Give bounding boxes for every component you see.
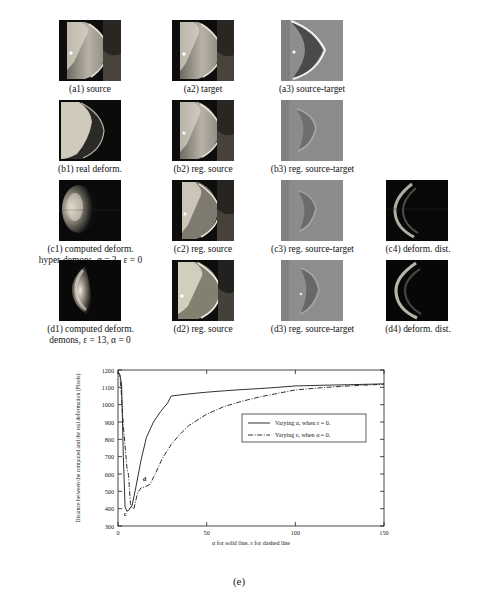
- y-tick-label: 700: [105, 453, 114, 460]
- thumbnail-b3: [281, 100, 343, 161]
- caption-a3: (a3) source-target: [261, 84, 363, 95]
- y-tick-label: 300: [105, 523, 114, 530]
- caption-d4: (d4) deform. dist.: [370, 324, 466, 335]
- thumbnail-d4: [386, 260, 448, 321]
- thumbnail-c4: [386, 180, 448, 241]
- thumbnail-a3: [281, 20, 343, 81]
- y-tick-label: 500: [105, 488, 114, 495]
- thumbnail-b1: [59, 100, 121, 161]
- caption-c1: (c1) computed deform.: [27, 244, 154, 255]
- figure-registration-results: (a1) source (a2) target (a3) source-targ…: [0, 0, 478, 608]
- caption-d1: (d1) computed deform.: [27, 324, 154, 335]
- y-tick-label: 1000: [102, 401, 114, 408]
- caption-a1: (a1) source: [39, 84, 141, 95]
- y-tick-label: 1100: [102, 384, 114, 391]
- caption-b1: (b1) real deform.: [39, 164, 141, 175]
- caption-b3: (b3) reg. source-target: [255, 164, 370, 175]
- y-tick-label: 600: [105, 471, 114, 478]
- caption-d2: (d2) reg. source: [155, 324, 251, 335]
- caption-b2: (b2) reg. source: [152, 164, 254, 175]
- x-tick-label: 150: [379, 529, 388, 536]
- thumbnail-d1: [59, 260, 121, 321]
- x-tick-label: 50: [204, 529, 210, 536]
- legend-label-1: Varying α, when ε = 0.: [275, 420, 331, 426]
- caption-c4: (c4) deform. dist.: [370, 244, 466, 255]
- thumbnail-c3: [281, 180, 343, 241]
- thumbnail-c2: [172, 180, 234, 241]
- thumbnail-a1: [59, 20, 121, 81]
- subfigure-label-e: (e): [0, 575, 478, 587]
- caption-a2: (a2) target: [152, 84, 254, 95]
- caption-d3: (d3) reg. source-target: [255, 324, 370, 335]
- caption-c2: (c2) reg. source: [155, 244, 251, 255]
- caption-c3: (c3) reg. source-target: [255, 244, 370, 255]
- y-tick-label: 400: [105, 505, 114, 512]
- x-tick-label: 100: [291, 529, 300, 536]
- thumbnail-d2: [172, 260, 234, 321]
- caption-d1-line2: demons, ε = 13, α = 0: [25, 335, 155, 346]
- line-chart-deformation-distance: 3004005006007008009001000110012000501001…: [66, 358, 396, 568]
- annotation-c: c: [124, 510, 127, 517]
- legend-label-2: Varying ε, when α = 0.: [275, 432, 331, 438]
- annotation-d: d: [143, 475, 147, 482]
- y-tick-label: 900: [105, 419, 114, 426]
- y-tick-label: 1200: [102, 367, 114, 374]
- x-axis-label: α for solid line, ε for dashed line: [212, 540, 290, 546]
- thumbnail-a2: [172, 20, 234, 81]
- y-axis-label: Distance between the computed and the re…: [75, 374, 82, 523]
- y-tick-label: 800: [105, 436, 114, 443]
- thumbnail-d3: [281, 260, 343, 321]
- thumbnail-c1: [59, 180, 121, 241]
- x-tick-label: 0: [116, 529, 119, 536]
- thumbnail-b2: [172, 100, 234, 161]
- plot-frame: [118, 370, 384, 526]
